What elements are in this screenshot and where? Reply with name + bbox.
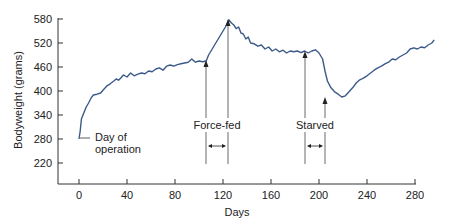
- y-tick-label: 220: [34, 157, 52, 169]
- x-tick-label: 0: [76, 189, 82, 201]
- x-tick-label: 200: [310, 189, 328, 201]
- y-tick-label: 460: [34, 61, 52, 73]
- y-tick-label: 520: [34, 37, 52, 49]
- x-axis: 0 40 80 120 160 200 240 280 Days: [58, 179, 424, 218]
- bodyweight-chart: 580 520 460 400 340 280 220 Bodyweight (…: [0, 0, 453, 224]
- x-tick-label: 40: [121, 189, 133, 201]
- force-fed-label: Force-fed: [193, 119, 240, 131]
- y-axis-title: Bodyweight (grams): [12, 51, 24, 149]
- x-axis-title: Days: [224, 206, 250, 218]
- x-tick-label: 120: [214, 189, 232, 201]
- y-tick-label: 280: [34, 133, 52, 145]
- bodyweight-line: [79, 20, 434, 139]
- arrow-up-icon: [323, 97, 328, 104]
- operation-label: operation: [95, 143, 141, 155]
- y-tick-label: 580: [34, 13, 52, 25]
- x-tick-label: 240: [358, 189, 376, 201]
- day-of-operation-annotation: Day of operation: [80, 131, 141, 155]
- starved-annotation: Starved: [296, 51, 336, 164]
- x-tick-label: 80: [169, 189, 181, 201]
- arrow-right-icon: [222, 144, 226, 148]
- y-tick-label: 340: [34, 109, 52, 121]
- arrow-right-icon: [319, 144, 323, 148]
- y-tick-label: 400: [34, 85, 52, 97]
- day-of-label: Day of: [95, 131, 128, 143]
- arrow-left-icon: [208, 144, 212, 148]
- x-tick-label: 280: [406, 189, 424, 201]
- x-tick-label: 160: [262, 189, 280, 201]
- y-axis: 580 520 460 400 340 280 220 Bodyweight (…: [12, 13, 63, 184]
- arrow-left-icon: [307, 144, 311, 148]
- starved-label: Starved: [296, 119, 334, 131]
